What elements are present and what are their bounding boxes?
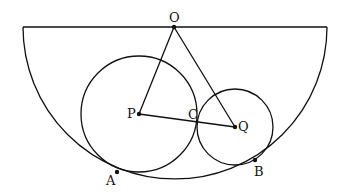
point-a xyxy=(115,170,119,174)
point-o xyxy=(172,25,176,29)
label-p: P xyxy=(127,107,136,120)
label-o: O xyxy=(169,11,180,24)
label-q: Q xyxy=(238,120,249,133)
label-c: C xyxy=(188,108,198,121)
semicircle-arc xyxy=(23,27,327,179)
point-p xyxy=(137,112,141,116)
diagram-svg xyxy=(0,0,346,196)
point-b xyxy=(253,158,257,162)
label-a: A xyxy=(106,174,115,187)
segment-op xyxy=(139,27,174,114)
point-q xyxy=(233,125,237,129)
label-b: B xyxy=(254,165,264,178)
geometry-diagram: O P C Q A B xyxy=(0,0,346,196)
segment-pq xyxy=(139,114,235,127)
